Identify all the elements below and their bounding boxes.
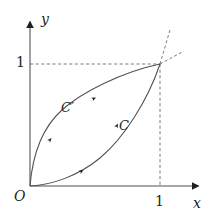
- curve-label-c-prime: C′: [61, 101, 74, 114]
- curve-c-prime-path: [30, 64, 160, 186]
- diagram-svg: [0, 0, 214, 224]
- tangent-rays-group: [160, 30, 184, 64]
- curve-c-prime-group: [30, 64, 160, 186]
- x-tick-label-1: 1: [155, 194, 164, 208]
- y-tick-label-1: 1: [16, 55, 25, 69]
- origin-label: O: [14, 189, 25, 203]
- curve-c-prime-arrow-2: [91, 96, 97, 101]
- curve-c-prime-arrow-1: [47, 137, 53, 143]
- figure-canvas: y x O 1 1 C′ C: [0, 0, 214, 224]
- tangent-ray-steep: [160, 30, 170, 64]
- curve-label-c: C: [119, 119, 129, 132]
- axes-group: [30, 22, 198, 186]
- y-axis-label: y: [41, 12, 49, 26]
- x-axis-label: x: [193, 196, 201, 210]
